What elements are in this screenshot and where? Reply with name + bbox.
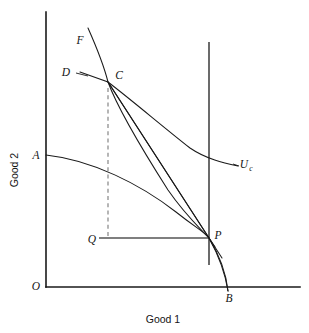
label-curve-uc: U [240, 158, 249, 170]
label-point-p: P [213, 229, 221, 241]
y-axis-title: Good 2 [8, 153, 20, 188]
label-curve-uc-subscript: c [249, 164, 253, 173]
label-point-a: A [31, 149, 40, 161]
x-axis-title: Good 1 [146, 313, 181, 325]
label-point-b: B [225, 292, 232, 304]
label-point-q: Q [88, 233, 97, 245]
chord-cp [108, 82, 215, 247]
label-point-d: D [61, 66, 71, 78]
diagram-canvas: A B C D F P Q O U c Good 1 Good 2 [0, 0, 309, 333]
economics-diagram: A B C D F P Q O U c Good 1 Good 2 [0, 0, 309, 333]
label-origin: O [32, 280, 41, 292]
indifference-curve-uc [108, 82, 238, 166]
label-point-c: C [115, 69, 123, 81]
label-point-f: F [75, 34, 84, 46]
ppf-curve-ab [46, 155, 228, 291]
